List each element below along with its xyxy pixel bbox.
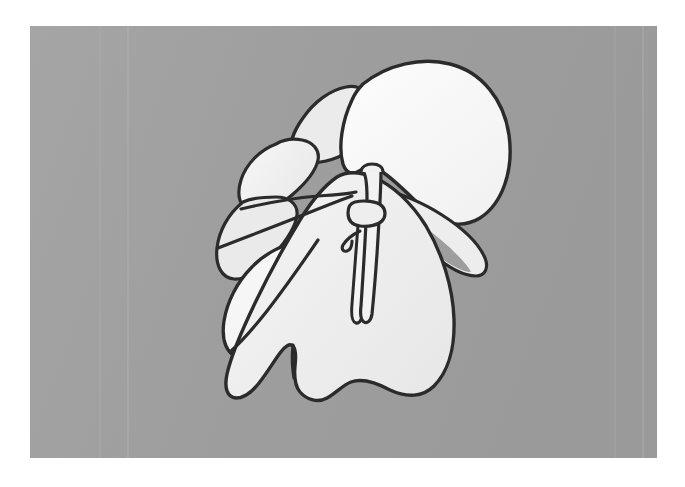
part-stem-cap [361, 164, 383, 172]
page-root: plant-bud-with-petals-and-stem line-draw… [0, 0, 685, 487]
part-stem-collar-ring [348, 201, 385, 226]
part-body-cleft [292, 345, 294, 378]
illustration-svg [30, 26, 657, 458]
figure-panel [30, 26, 657, 458]
